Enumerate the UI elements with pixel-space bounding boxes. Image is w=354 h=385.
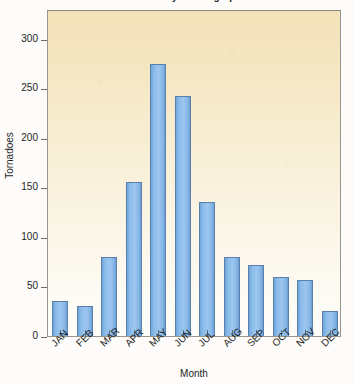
y-tick-label: 200 — [21, 132, 38, 143]
y-tick-mark — [41, 238, 47, 239]
bar-jul — [199, 202, 215, 336]
bar-series — [48, 11, 340, 336]
bar-may — [150, 64, 166, 337]
bar-aug — [224, 257, 240, 336]
y-tick-label: 150 — [21, 181, 38, 192]
y-tick-mark — [41, 287, 47, 288]
y-tick-label: 100 — [21, 231, 38, 242]
bar-jun — [175, 96, 191, 336]
y-axis: 050100150200250300 — [0, 0, 47, 385]
y-axis-title: Tornadoes — [4, 121, 15, 191]
plot-area — [47, 10, 341, 337]
y-tick-mark — [41, 40, 47, 41]
y-tick-label: 50 — [27, 280, 38, 291]
x-axis-title: Month — [47, 368, 341, 379]
y-tick-label: 250 — [21, 82, 38, 93]
chart-title: Tornadoes by month graph — [0, 0, 354, 2]
y-tick-mark — [41, 139, 47, 140]
bar-mar — [101, 257, 117, 336]
y-tick-mark — [41, 188, 47, 189]
y-tick-label: 300 — [21, 33, 38, 44]
chart-figure: Tornadoes by month graph 050100150200250… — [0, 0, 354, 385]
bar-apr — [126, 182, 142, 336]
y-tick-mark — [41, 89, 47, 90]
bar-sep — [248, 265, 264, 336]
